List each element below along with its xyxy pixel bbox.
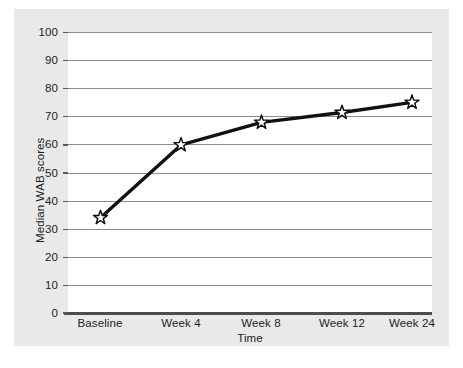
x-tick-label-baseline: Baseline	[60, 317, 140, 330]
x-tick-label-week-24: Week 24	[372, 317, 452, 330]
y-tick-label-0: 0	[28, 307, 58, 319]
y-tick-label-100: 100	[28, 26, 58, 38]
y-tick-label-80: 80	[28, 82, 58, 94]
y-tick-label-70: 70	[28, 110, 58, 122]
data-point-week-24	[405, 95, 419, 108]
figure-container: 100 90 80 70 60 50 40 30 20 10 0 Median …	[0, 0, 463, 368]
x-tick-label-week-4: Week 4	[141, 317, 221, 330]
y-axis-ticks	[63, 33, 68, 314]
gridlines	[68, 33, 432, 286]
x-tick-label-week-12: Week 12	[302, 317, 382, 330]
y-tick-label-10: 10	[28, 279, 58, 291]
x-axis-title: Time	[190, 332, 310, 344]
y-tick-label-20: 20	[28, 251, 58, 263]
x-tick-label-week-8: Week 8	[221, 317, 301, 330]
data-markers	[93, 95, 419, 224]
y-tick-label-90: 90	[28, 54, 58, 66]
y-axis-title: Median WAB scores	[34, 138, 46, 243]
chart-canvas	[0, 0, 463, 368]
